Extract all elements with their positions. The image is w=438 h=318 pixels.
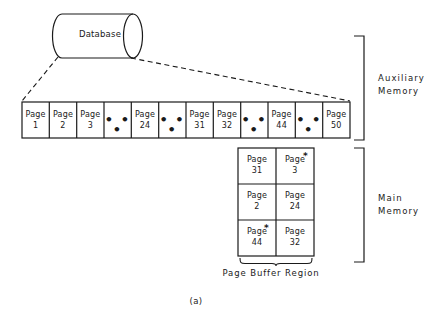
auxiliary-memory-label-line1: Auxiliary	[378, 72, 425, 85]
page-buffer-region-brace	[240, 258, 312, 266]
modified-marker-page-44: *	[264, 226, 269, 231]
auxiliary-memory-label: Auxiliary Memory	[378, 72, 425, 97]
figure-page-buffer-diagram: Database Page 1 Page 2 Page 3 • • • Page…	[0, 0, 438, 318]
strip-cell-ellipsis-4: • • •	[295, 115, 322, 135]
strip-cell-page-50: Page 50	[323, 110, 350, 131]
buffer-cell-page-44: Page 44	[238, 227, 276, 248]
strip-cell-page-31: Page 31	[186, 110, 213, 131]
main-memory-label-line2: Memory	[378, 205, 419, 218]
auxiliary-memory-bracket	[354, 36, 364, 140]
main-memory-bracket	[354, 148, 364, 262]
strip-cell-page-3: Page 3	[77, 110, 104, 131]
page-buffer-region-label: Page Buffer Region	[196, 268, 346, 278]
main-memory-label: Main Memory	[378, 192, 419, 217]
strip-cell-page-2: Page 2	[49, 110, 76, 131]
strip-cell-page-32: Page 32	[213, 110, 240, 131]
buffer-cell-page-32: Page 32	[276, 227, 314, 248]
projection-lines	[22, 57, 350, 101]
strip-cell-ellipsis-1: • • •	[104, 115, 131, 135]
figure-caption: (a)	[176, 296, 216, 306]
database-label: Database	[62, 29, 138, 39]
strip-cell-page-24: Page 24	[131, 110, 158, 131]
auxiliary-memory-label-line2: Memory	[378, 85, 425, 98]
strip-cell-ellipsis-3: • • •	[241, 115, 268, 135]
buffer-cell-page-24: Page 24	[276, 191, 314, 212]
buffer-cell-page-3: Page 3	[276, 155, 314, 176]
strip-cell-ellipsis-2: • • •	[159, 115, 186, 135]
buffer-cell-page-2: Page 2	[238, 191, 276, 212]
strip-cell-page-44: Page 44	[268, 110, 295, 131]
buffer-cell-page-31: Page 31	[238, 155, 276, 176]
modified-marker-page-3: *	[303, 154, 308, 159]
strip-cell-page-1: Page 1	[22, 110, 49, 131]
main-memory-label-line1: Main	[378, 192, 419, 205]
